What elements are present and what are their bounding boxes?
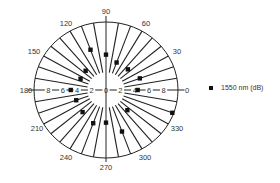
data-point-marker xyxy=(114,60,118,64)
data-point-marker xyxy=(69,88,73,92)
data-point-marker xyxy=(120,129,124,133)
legend-square-marker-icon xyxy=(209,86,213,90)
data-point-marker xyxy=(125,108,129,112)
angle-tick-label: 300 xyxy=(139,153,152,162)
spoke-line xyxy=(93,23,102,73)
radial-tick-label: 8 xyxy=(162,86,166,95)
radial-tick-label: 8 xyxy=(46,86,50,95)
radial-tick-label: 0 xyxy=(104,86,108,95)
spoke-line xyxy=(38,67,88,84)
data-point-marker xyxy=(170,111,174,115)
legend-label: 1550 nm (dB) xyxy=(221,84,263,91)
angle-tick-label: 210 xyxy=(31,124,44,133)
angle-tick-label: 90 xyxy=(102,7,110,16)
angle-tick-label: 180 xyxy=(20,86,33,95)
polar-chart: 0306090120150180210240270300330 02244668… xyxy=(0,0,280,183)
radial-tick-labels: 022446688 xyxy=(46,86,165,95)
spoke-line xyxy=(70,31,97,75)
angle-tick-label: 60 xyxy=(142,19,150,28)
angle-tick-label: 240 xyxy=(60,153,73,162)
data-point-marker xyxy=(74,98,78,102)
data-point-marker xyxy=(80,110,84,114)
angle-tick-label: 270 xyxy=(100,163,113,172)
radial-tick-label: 6 xyxy=(147,86,151,95)
data-point-marker xyxy=(104,52,108,56)
angle-tick-label: 150 xyxy=(28,47,41,56)
data-point-marker xyxy=(78,77,82,81)
data-point-marker xyxy=(104,120,108,124)
spoke-line xyxy=(109,107,118,157)
radial-tick-label: 4 xyxy=(75,86,79,95)
spoke-line xyxy=(112,26,130,73)
data-point-marker xyxy=(135,88,139,92)
radial-tick-label: 6 xyxy=(61,86,65,95)
spoke-line xyxy=(44,56,90,81)
data-point-marker xyxy=(88,48,92,52)
angle-tick-label: 330 xyxy=(171,124,184,133)
angle-tick-label: 0 xyxy=(185,86,189,95)
spoke-line xyxy=(124,67,174,84)
spoke-line xyxy=(124,96,174,113)
radial-tick-label: 2 xyxy=(118,86,122,95)
radial-tick-label: 2 xyxy=(90,86,94,95)
angle-tick-label: 30 xyxy=(173,47,181,56)
data-point-marker xyxy=(91,121,95,125)
data-point-marker xyxy=(138,76,142,80)
angle-tick-label: 120 xyxy=(60,19,73,28)
data-point-marker xyxy=(83,69,87,73)
spoke-line xyxy=(93,107,102,157)
spoke-line xyxy=(109,23,118,73)
legend: 1550 nm (dB) xyxy=(209,84,263,91)
data-point-marker xyxy=(126,67,130,71)
